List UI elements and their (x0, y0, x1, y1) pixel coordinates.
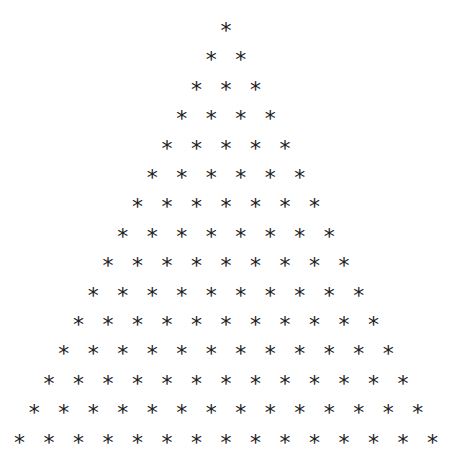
asterisk: * (334, 432, 354, 454)
asterisk: * (246, 432, 266, 454)
asterisk: * (393, 373, 413, 395)
asterisk: * (393, 432, 413, 454)
asterisk: * (128, 432, 148, 454)
asterisk: * (98, 373, 118, 395)
asterisk: * (172, 108, 192, 130)
asterisk: * (334, 373, 354, 395)
asterisk: * (305, 255, 325, 277)
asterisk: * (98, 314, 118, 336)
asterisk: * (157, 314, 177, 336)
asterisk: * (142, 226, 162, 248)
asterisk: * (83, 343, 103, 365)
asterisk: * (216, 432, 236, 454)
asterisk: * (349, 285, 369, 307)
asterisk: * (231, 226, 251, 248)
asterisk: * (275, 196, 295, 218)
asterisk: * (319, 343, 339, 365)
asterisk: * (98, 255, 118, 277)
asterisk: * (54, 343, 74, 365)
asterisk: * (260, 402, 280, 424)
asterisk: * (201, 167, 221, 189)
asterisk: * (275, 373, 295, 395)
asterisk: * (172, 226, 192, 248)
asterisk: * (98, 432, 118, 454)
asterisk: * (157, 373, 177, 395)
asterisk: * (305, 432, 325, 454)
asterisk: * (54, 402, 74, 424)
asterisk: * (142, 167, 162, 189)
asterisk: * (216, 373, 236, 395)
asterisk: * (231, 108, 251, 130)
asterisk: * (187, 373, 207, 395)
asterisk: * (216, 196, 236, 218)
asterisk: * (216, 255, 236, 277)
asterisk: * (334, 255, 354, 277)
asterisk: * (201, 108, 221, 130)
asterisk: * (157, 138, 177, 160)
asterisk: * (187, 255, 207, 277)
asterisk: * (246, 79, 266, 101)
asterisk: * (201, 226, 221, 248)
asterisk: * (231, 167, 251, 189)
asterisk: * (275, 314, 295, 336)
asterisk: * (378, 343, 398, 365)
asterisk: * (113, 285, 133, 307)
asterisk: * (260, 167, 280, 189)
asterisk: * (113, 343, 133, 365)
asterisk: * (378, 402, 398, 424)
asterisk: * (113, 226, 133, 248)
asterisk: * (128, 373, 148, 395)
asterisk: * (290, 285, 310, 307)
asterisk: * (260, 343, 280, 365)
asterisk: * (290, 343, 310, 365)
asterisk: * (142, 285, 162, 307)
asterisk: * (305, 373, 325, 395)
asterisk: * (216, 314, 236, 336)
asterisk: * (187, 138, 207, 160)
asterisk: * (305, 196, 325, 218)
asterisk: * (187, 79, 207, 101)
asterisk: * (290, 402, 310, 424)
asterisk: * (201, 49, 221, 71)
asterisk: * (39, 432, 59, 454)
asterisk: * (83, 402, 103, 424)
asterisk: * (172, 167, 192, 189)
asterisk: * (69, 432, 89, 454)
asterisk: * (231, 285, 251, 307)
asterisk: * (364, 432, 384, 454)
asterisk: * (408, 402, 428, 424)
asterisk: * (290, 226, 310, 248)
asterisk: * (128, 255, 148, 277)
asterisk: * (246, 138, 266, 160)
asterisk: * (231, 402, 251, 424)
asterisk: * (187, 196, 207, 218)
asterisk: * (290, 167, 310, 189)
asterisk: * (187, 432, 207, 454)
asterisk: * (246, 373, 266, 395)
asterisk: * (319, 285, 339, 307)
asterisk: * (216, 20, 236, 42)
asterisk: * (305, 314, 325, 336)
asterisk: * (423, 432, 443, 454)
asterisk: * (260, 108, 280, 130)
asterisk: * (246, 314, 266, 336)
asterisk: * (319, 402, 339, 424)
asterisk: * (246, 196, 266, 218)
asterisk: * (275, 138, 295, 160)
asterisk: * (187, 314, 207, 336)
asterisk: * (246, 255, 266, 277)
asterisk: * (231, 49, 251, 71)
asterisk: * (172, 285, 192, 307)
asterisk: * (334, 314, 354, 336)
asterisk: * (201, 402, 221, 424)
asterisk: * (216, 79, 236, 101)
asterisk: * (172, 402, 192, 424)
asterisk: * (364, 314, 384, 336)
asterisk: * (142, 402, 162, 424)
asterisk: * (172, 343, 192, 365)
asterisk: * (157, 432, 177, 454)
asterisk: * (83, 285, 103, 307)
asterisk: * (39, 373, 59, 395)
asterisk: * (201, 343, 221, 365)
asterisk: * (216, 138, 236, 160)
